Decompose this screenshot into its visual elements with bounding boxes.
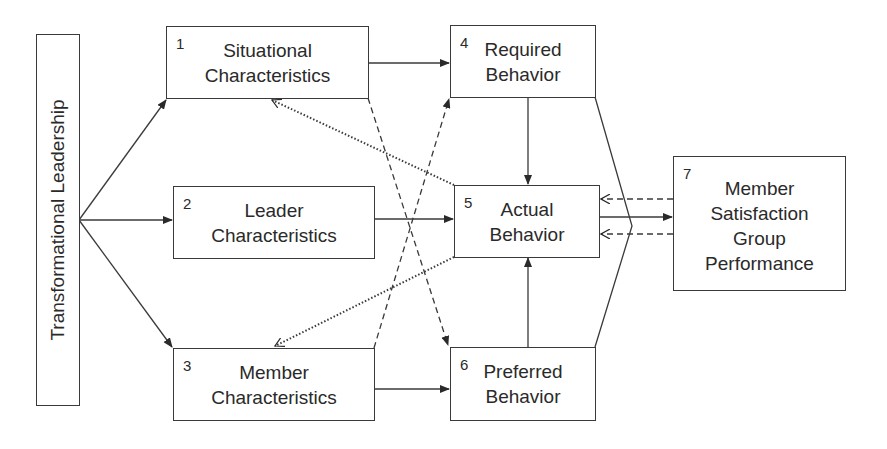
box-label-line: Characteristics xyxy=(205,63,331,88)
edge-tl-to-3 xyxy=(79,220,172,347)
box-situational-characteristics: 1 Situational Characteristics xyxy=(166,26,369,99)
edge-tl-to-1 xyxy=(79,100,166,220)
box-label-line: Satisfaction xyxy=(710,201,808,226)
box-member-characteristics: 3 Member Characteristics xyxy=(173,348,375,421)
transformational-leadership-label: Transformational Leadership xyxy=(47,99,69,340)
box-label-line: Situational xyxy=(223,38,312,63)
box-label-line: Group xyxy=(733,226,786,251)
box-label-line: Member xyxy=(725,176,795,201)
box-label-line: Behavior xyxy=(486,62,561,87)
box-preferred-behavior: 6 Preferred Behavior xyxy=(450,347,596,421)
box-label-line: Member xyxy=(239,360,309,385)
box-label-line: Leader xyxy=(244,198,303,223)
box-label-line: Preferred xyxy=(483,359,562,384)
box-leader-characteristics: 2 Leader Characteristics xyxy=(173,186,375,259)
congruence-chevron xyxy=(595,97,632,347)
edge-5-to-3-dotted xyxy=(275,257,454,346)
box-actual-behavior: 5 Actual Behavior xyxy=(454,185,600,258)
transformational-leadership-box: Transformational Leadership xyxy=(36,34,80,406)
box-label-line: Behavior xyxy=(490,222,565,247)
box-label-line: Performance xyxy=(705,251,814,276)
edge-1-to-6-dashed xyxy=(368,98,448,345)
box-required-behavior: 4 Required Behavior xyxy=(450,25,596,98)
box-label-line: Characteristics xyxy=(211,385,337,410)
box-member-satisfaction-group-performance: 7 Member Satisfaction Group Performance xyxy=(673,156,846,291)
edge-3-to-4-dashed xyxy=(374,99,449,348)
box-label-line: Characteristics xyxy=(211,223,337,248)
box-label-line: Behavior xyxy=(486,384,561,409)
box-label-line: Actual xyxy=(501,197,554,222)
box-label-line: Required xyxy=(484,37,561,62)
